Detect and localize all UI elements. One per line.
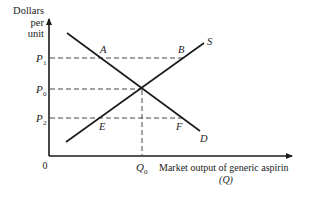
- p1-main: P: [35, 52, 43, 64]
- demand-label: D: [199, 133, 208, 144]
- quantity-label-q0: Q 0: [136, 161, 148, 176]
- price-label-p2: P 2: [35, 112, 47, 127]
- q0-sub: 0: [144, 168, 148, 176]
- p2-main: P: [35, 112, 43, 124]
- supply-label: S: [207, 36, 213, 47]
- point-label-b: B: [178, 44, 185, 55]
- q0-main: Q: [136, 161, 144, 173]
- p0-sub: 0: [43, 90, 47, 98]
- y-axis-label-line3: unit: [28, 28, 44, 39]
- x-axis-label: Market output of generic aspirin: [159, 162, 288, 173]
- price-label-p0: P 0: [35, 83, 47, 98]
- p2-sub: 2: [43, 119, 47, 127]
- p1-sub: 1: [43, 59, 47, 67]
- point-label-e: E: [98, 121, 106, 132]
- p0-main: P: [35, 83, 43, 95]
- point-label-f: F: [175, 121, 183, 132]
- y-axis-label-line2: per: [31, 17, 45, 28]
- supply-demand-diagram: Dollars per unit P 1 P 0 P 2 0 Q 0 Marke…: [0, 0, 309, 197]
- y-axis-label-line1: Dollars: [13, 5, 44, 16]
- point-label-a: A: [99, 44, 107, 55]
- price-label-p1: P 1: [35, 52, 47, 67]
- origin-label: 0: [43, 160, 48, 171]
- x-axis-symbol: (Q): [219, 174, 234, 186]
